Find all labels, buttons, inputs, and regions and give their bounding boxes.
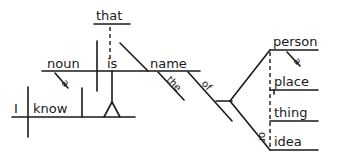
predicate-slash [120,43,148,71]
fork-upper-branch [230,50,270,101]
word-name: name [150,56,187,71]
word-that: that [96,8,122,23]
word-noun: noun [47,56,80,71]
word-place: place [274,74,309,89]
word-is: is [107,56,118,71]
sentence-diagram: that noun a is name the of person a plac… [0,0,337,163]
word-of: of [200,78,215,93]
word-a-noun: a [60,77,72,89]
word-the: the [165,74,184,94]
pedestal-right-leg [112,102,120,117]
word-a-person: a [292,55,304,67]
word-i: I [14,101,18,116]
pedestal-left-leg [104,102,112,117]
word-idea: idea [274,134,302,149]
fork-lower-branch [230,101,270,150]
word-know: know [33,101,68,116]
word-thing: thing [274,105,307,120]
word-person: person [273,34,318,49]
word-or: or [257,132,268,143]
